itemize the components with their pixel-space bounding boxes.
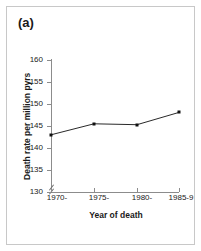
data-point-marker bbox=[136, 123, 139, 126]
x-axis-title: Year of death bbox=[51, 211, 181, 220]
figure-root: (a) 130 135 140 145 150 155 160 1970- 19… bbox=[0, 0, 201, 251]
y-axis-title: Death rate per million pyrs bbox=[23, 56, 32, 196]
data-point-marker bbox=[178, 111, 181, 114]
data-point-marker bbox=[93, 122, 96, 125]
data-point-marker bbox=[50, 133, 53, 136]
plot-area: 130 135 140 145 150 155 160 1970- 1975- … bbox=[0, 0, 201, 251]
